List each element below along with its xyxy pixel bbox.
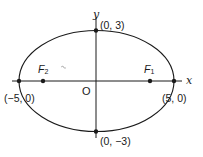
focus-f1-point — [148, 79, 152, 83]
vertex-right-label: (5, 0) — [162, 93, 187, 104]
vertex-left-label: (−5, 0) — [4, 93, 35, 104]
origin-label: O — [82, 86, 91, 97]
vertex-top-point — [94, 28, 98, 32]
vertex-left-point — [17, 79, 21, 83]
vertex-top-label: (0, 3) — [100, 20, 125, 31]
stray-mark — [61, 66, 66, 68]
focus-f2-label: F2 — [38, 64, 48, 75]
focus-f2-point — [41, 79, 45, 83]
x-axis-label: x — [186, 75, 192, 86]
vertex-right-point — [172, 79, 176, 83]
y-axis-label: y — [93, 9, 99, 20]
focus-f2-subscript: 2 — [44, 68, 48, 75]
focus-f1-label: F1 — [144, 64, 154, 75]
vertex-bottom-label: (0, −3) — [100, 136, 131, 147]
focus-f1-subscript: 1 — [150, 68, 154, 75]
vertex-bottom-point — [94, 129, 98, 133]
